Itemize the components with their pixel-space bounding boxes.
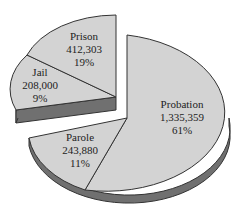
label-jail-pct: 9% [33, 92, 48, 104]
label-probation-name: Probation [161, 98, 204, 110]
label-jail-name: Jail [32, 66, 47, 78]
label-probation-pct: 61% [172, 124, 192, 136]
label-parole-name: Parole [66, 131, 94, 143]
label-jail-value: 208,000 [22, 79, 58, 91]
pie-chart: Prison 412,303 19% Jail 208,000 9% Proba… [0, 0, 243, 222]
exploded-pie [10, 15, 116, 123]
label-prison-pct: 19% [74, 56, 94, 68]
label-prison-name: Prison [70, 30, 99, 42]
label-probation-value: 1,335,359 [160, 111, 205, 123]
label-prison-value: 412,303 [66, 43, 102, 55]
label-parole-value: 243,880 [62, 144, 98, 156]
label-parole-pct: 11% [70, 157, 90, 169]
